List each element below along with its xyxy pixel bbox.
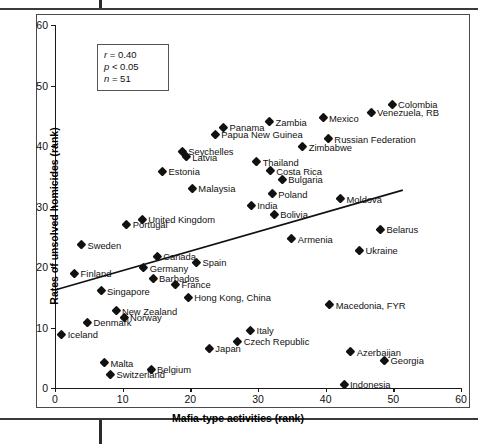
trendline-svg [0, 0, 478, 444]
figure-page: r = 0.40 p < 0.05 n = 51 010203040506001… [0, 0, 478, 444]
x-axis-title: Mafia-type activities (rank) [172, 412, 304, 424]
y-axis-title: Rates of unsolved homicides (rank) [48, 116, 60, 316]
regression-trendline [55, 190, 403, 290]
